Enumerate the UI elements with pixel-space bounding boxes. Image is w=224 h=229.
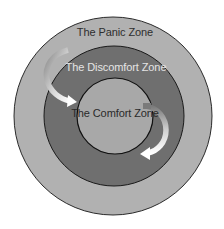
panic-zone-label: The Panic Zone [77,26,153,38]
discomfort-zone-label: The Discomfort Zone [66,61,167,73]
comfort-zone-diagram: The Panic Zone The Discomfort Zone The C… [0,0,224,229]
comfort-zone-label: The Comfort Zone [71,107,159,119]
